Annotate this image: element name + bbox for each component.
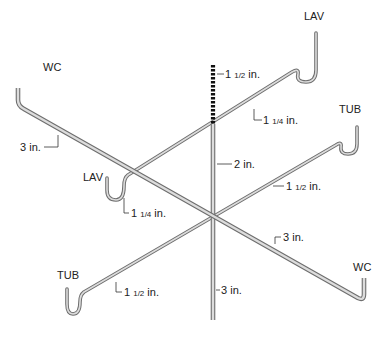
wc-branch-pipe bbox=[18, 88, 364, 299]
dim-wc-left-branch: 3 in. bbox=[20, 142, 41, 153]
fixture-label-tub-left: TUB bbox=[57, 270, 79, 281]
dim-lav-left-branch: 1 1/4 in. bbox=[131, 208, 166, 219]
dim-lav-top-branch: 1 1/4 in. bbox=[263, 115, 298, 126]
dim-vent-stack: 1 1/2 in. bbox=[225, 69, 260, 80]
fixture-label-lav-left: LAV bbox=[83, 172, 103, 183]
dim-stack-lower: 3 in. bbox=[221, 285, 242, 296]
dim-tub-right-branch: 1 1/2 in. bbox=[286, 181, 321, 192]
dim-tub-left-branch: 1 1/2 in. bbox=[124, 287, 159, 298]
piping-diagram: .pe { fill: none; stroke: #6e6e6e; strok… bbox=[0, 0, 389, 337]
fixture-label-tub-right: TUB bbox=[339, 104, 361, 115]
dimension-leaders bbox=[44, 74, 284, 292]
fixture-label-wc-left: WC bbox=[43, 62, 61, 73]
dim-stack-upper: 2 in. bbox=[234, 159, 255, 170]
fixture-label-lav-top: LAV bbox=[304, 11, 324, 22]
fixture-label-wc-right: WC bbox=[353, 262, 371, 273]
dim-wc-right-branch: 3 in. bbox=[283, 232, 304, 243]
